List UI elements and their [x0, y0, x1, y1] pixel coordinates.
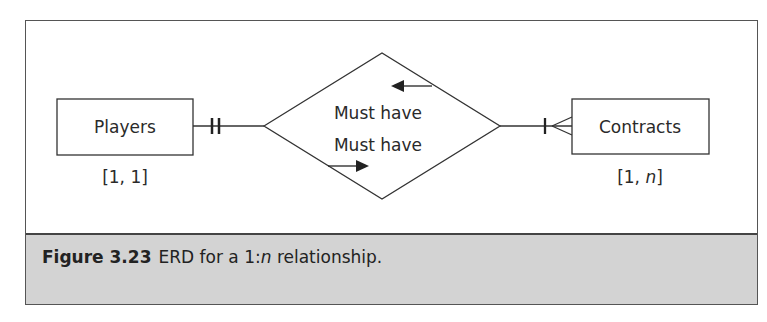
- entity-contracts: Contracts [1, n]: [572, 99, 709, 187]
- relationship-label-bottom: Must have: [334, 135, 422, 155]
- caption-text: ERD for a 1:n relationship.: [159, 247, 383, 267]
- entity-players-label: Players: [94, 117, 156, 137]
- entity-players: Players [1, 1]: [57, 99, 193, 187]
- connector-one-and-only-one: [193, 118, 264, 134]
- figure-number: Figure 3.23: [42, 247, 152, 267]
- players-cardinality: [1, 1]: [102, 167, 148, 187]
- contracts-cardinality: [1, n]: [617, 167, 663, 187]
- entity-contracts-label: Contracts: [599, 117, 681, 137]
- caption-bar: [26, 233, 757, 304]
- relationship-label-top: Must have: [334, 103, 422, 123]
- figure-caption: Figure 3.23ERD for a 1:n relationship.: [42, 247, 382, 267]
- connector-one-or-many: [500, 117, 572, 135]
- relationship-diamond: Must have Must have: [264, 53, 500, 199]
